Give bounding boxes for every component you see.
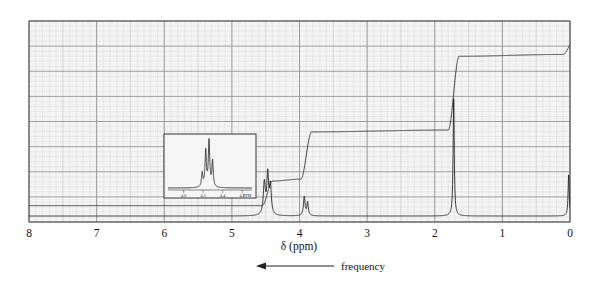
nmr-svg: 876543210 δ (ppm) frequency 4.64.54.44.3… — [0, 0, 599, 281]
inset-unit-label: PPM — [243, 193, 252, 198]
axis-tick-0: 0 — [567, 227, 573, 239]
axis-tick-6: 6 — [161, 227, 167, 239]
axis-tick-7: 7 — [94, 227, 100, 239]
inset-tick-4-4: 4.4 — [220, 193, 226, 198]
nmr-figure: 876543210 δ (ppm) frequency 4.64.54.44.3… — [0, 0, 599, 281]
axis-tick-4: 4 — [297, 227, 303, 239]
x-axis-label: δ (ppm) — [281, 240, 318, 253]
axis-tick-5: 5 — [229, 227, 235, 239]
axis-tick-1: 1 — [500, 227, 506, 239]
axis-tick-2: 2 — [432, 227, 438, 239]
frequency-label: frequency — [341, 260, 385, 272]
axis-tick-3: 3 — [364, 227, 370, 239]
inset-tick-4-5: 4.5 — [201, 193, 206, 198]
inset-tick-4-6: 4.6 — [181, 193, 186, 198]
axis-tick-8: 8 — [26, 227, 32, 239]
